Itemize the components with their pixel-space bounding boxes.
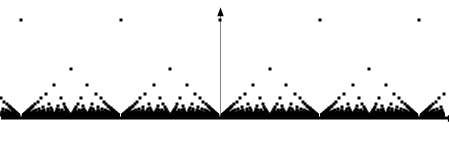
scatter-plot-canvas bbox=[0, 0, 449, 142]
thomae-function-figure bbox=[0, 0, 449, 142]
